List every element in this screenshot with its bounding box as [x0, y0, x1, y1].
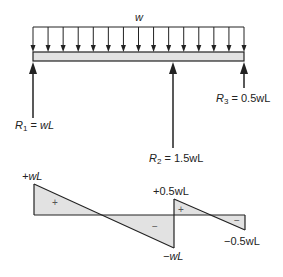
distributed-load — [31, 27, 247, 52]
arrow-down-icon — [76, 45, 81, 52]
arrow-down-icon — [106, 45, 111, 52]
plus-sign: + — [178, 204, 184, 215]
beam-diagram: w R1 = wL R2 = 1.5wL R3 = 0.5wL — [0, 0, 283, 277]
arrow-down-icon — [136, 45, 141, 52]
shear-label-right-max: +0.5wL — [153, 185, 189, 197]
arrow-down-icon — [196, 45, 201, 52]
arrow-down-icon — [31, 45, 36, 52]
minus-sign: − — [234, 215, 240, 226]
plus-sign: + — [52, 197, 58, 208]
reaction-r1 — [29, 62, 37, 118]
arrow-down-icon — [211, 45, 216, 52]
load-label: w — [135, 11, 144, 23]
arrow-down-icon — [121, 45, 126, 52]
arrow-down-icon — [91, 45, 96, 52]
reaction-label-r3: R3 = 0.5wL — [216, 92, 270, 106]
shear-diagram: + − + − — [34, 184, 245, 248]
reaction-r2 — [169, 62, 177, 148]
arrow-down-icon — [181, 45, 186, 52]
arrow-down-icon — [61, 45, 66, 52]
arrow-down-icon — [166, 45, 171, 52]
arrow-up-icon — [240, 62, 248, 74]
beam — [33, 52, 244, 61]
reaction-label-r1: R1 = wL — [15, 119, 54, 133]
reaction-r3 — [240, 62, 248, 88]
arrow-up-icon — [29, 62, 37, 74]
arrow-down-icon — [46, 45, 51, 52]
arrow-down-icon — [151, 45, 156, 52]
arrow-down-icon — [226, 45, 231, 52]
shear-label-right-min: −0.5wL — [224, 235, 260, 247]
arrow-up-icon — [169, 62, 177, 74]
shear-label-mid-min: −wL — [163, 250, 184, 262]
load-arrows — [31, 27, 247, 52]
shear-label-left-max: +wL — [22, 170, 43, 182]
arrow-down-icon — [242, 45, 247, 52]
reaction-label-r2: R2 = 1.5wL — [149, 152, 203, 166]
minus-sign: − — [152, 221, 158, 232]
